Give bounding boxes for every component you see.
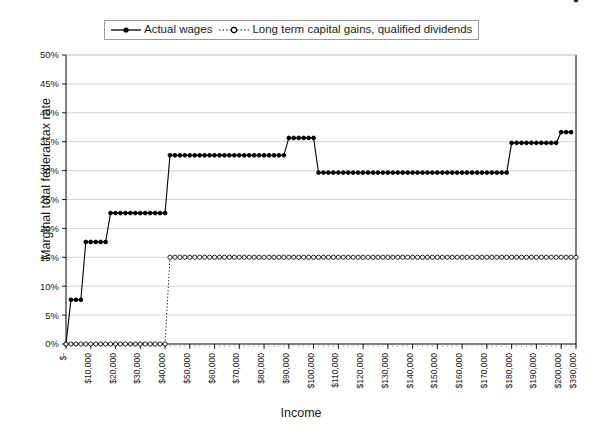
series-marker-0: [475, 171, 479, 175]
series-marker-1: [490, 255, 494, 259]
y-tick-label: 30%: [40, 165, 60, 176]
series-marker-0: [84, 240, 88, 244]
series-marker-1: [74, 342, 78, 346]
plot-area: 0%5%10%15%20%25%30%35%40%45%50%$-$10,000…: [0, 0, 602, 440]
series-marker-0: [505, 171, 509, 175]
series-marker-0: [396, 171, 400, 175]
series-marker-0: [421, 171, 425, 175]
series-marker-1: [311, 255, 315, 259]
series-marker-1: [193, 255, 197, 259]
x-tick-label: $170,000: [479, 353, 489, 389]
series-marker-0: [351, 171, 355, 175]
series-marker-1: [316, 255, 320, 259]
series-marker-0: [69, 298, 73, 302]
series-marker-0: [485, 171, 489, 175]
series-marker-0: [455, 171, 459, 175]
x-tick-label: $130,000: [380, 353, 390, 389]
series-marker-1: [564, 255, 568, 259]
series-marker-0: [79, 298, 83, 302]
series-marker-1: [148, 342, 152, 346]
series-marker-1: [549, 255, 553, 259]
series-marker-1: [480, 255, 484, 259]
series-marker-0: [322, 171, 326, 175]
series-marker-0: [371, 171, 375, 175]
series-marker-0: [133, 211, 137, 215]
series-marker-1: [207, 255, 211, 259]
series-marker-1: [198, 255, 202, 259]
series-marker-0: [262, 153, 266, 157]
series-marker-1: [292, 255, 296, 259]
series-marker-1: [69, 342, 73, 346]
series-marker-0: [128, 211, 132, 215]
series-marker-1: [559, 255, 563, 259]
series-marker-1: [326, 255, 330, 259]
series-marker-0: [520, 141, 524, 145]
x-tick-label: $-: [58, 353, 68, 361]
series-marker-1: [401, 255, 405, 259]
series-marker-0: [510, 141, 514, 145]
series-marker-1: [574, 255, 578, 259]
series-marker-0: [94, 240, 98, 244]
y-tick-label: 25%: [40, 194, 60, 205]
series-marker-1: [430, 255, 434, 259]
series-marker-1: [544, 255, 548, 259]
series-marker-1: [267, 255, 271, 259]
series-marker-1: [450, 255, 454, 259]
series-marker-1: [217, 255, 221, 259]
y-tick-label: 5%: [45, 310, 59, 321]
series-marker-1: [173, 255, 177, 259]
series-marker-0: [445, 171, 449, 175]
x-tick-label: $160,000: [454, 353, 464, 389]
series-marker-1: [242, 255, 246, 259]
series-marker-1: [64, 342, 68, 346]
series-marker-0: [317, 171, 321, 175]
series-marker-0: [406, 171, 410, 175]
x-tick-label: $80,000: [256, 353, 266, 384]
series-marker-1: [188, 255, 192, 259]
series-marker-0: [500, 171, 504, 175]
x-tick-label: $200,000: [553, 353, 563, 389]
series-marker-0: [208, 153, 212, 157]
series-marker-1: [356, 255, 360, 259]
series-marker-1: [297, 255, 301, 259]
series-marker-0: [480, 171, 484, 175]
series-marker-0: [252, 153, 256, 157]
series-marker-1: [465, 255, 469, 259]
series-marker-1: [534, 255, 538, 259]
series-marker-1: [99, 342, 103, 346]
x-tick-label: $50,000: [182, 353, 192, 384]
x-tick-label: $390,000: [568, 353, 578, 389]
series-marker-0: [435, 171, 439, 175]
series-marker-0: [297, 136, 301, 140]
series-marker-0: [495, 171, 499, 175]
series-marker-1: [118, 342, 122, 346]
series-marker-1: [455, 255, 459, 259]
series-marker-0: [277, 153, 281, 157]
series-marker-0: [386, 171, 390, 175]
series-marker-0: [539, 141, 543, 145]
series-marker-0: [188, 153, 192, 157]
y-tick-label: 10%: [40, 281, 60, 292]
series-marker-1: [510, 255, 514, 259]
series-marker-1: [411, 255, 415, 259]
series-marker-1: [302, 255, 306, 259]
series-marker-1: [138, 342, 142, 346]
series-marker-0: [99, 240, 103, 244]
series-marker-0: [183, 153, 187, 157]
series-marker-1: [495, 255, 499, 259]
series-marker-0: [450, 171, 454, 175]
series-marker-0: [223, 153, 227, 157]
series-line-1: [66, 257, 576, 344]
series-marker-0: [564, 130, 568, 134]
series-marker-1: [133, 342, 137, 346]
series-marker-1: [153, 342, 157, 346]
series-marker-0: [470, 171, 474, 175]
series-marker-1: [277, 255, 281, 259]
series-marker-1: [440, 255, 444, 259]
series-marker-0: [302, 136, 306, 140]
series-marker-1: [227, 255, 231, 259]
series-marker-1: [445, 255, 449, 259]
series-marker-1: [396, 255, 400, 259]
series-marker-1: [554, 255, 558, 259]
series-marker-0: [257, 153, 261, 157]
